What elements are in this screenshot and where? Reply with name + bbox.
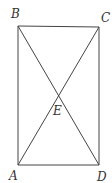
label-b: B (10, 7, 20, 21)
rectangle-diagram: A B C D E (0, 0, 112, 183)
label-c: C (101, 11, 110, 25)
label-e: E (52, 104, 62, 118)
label-d: D (96, 170, 107, 183)
label-a: A (8, 169, 18, 183)
side-bc (18, 26, 99, 27)
